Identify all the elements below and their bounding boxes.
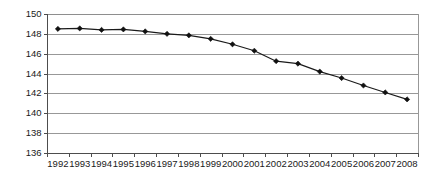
x-tick-label-1999: 1999 bbox=[200, 158, 221, 169]
x-tick-label-2000: 2000 bbox=[222, 158, 243, 169]
x-tick-label-1992: 1992 bbox=[47, 158, 68, 169]
x-tick-label-1997: 1997 bbox=[156, 158, 177, 169]
x-tick-label-1994: 1994 bbox=[91, 158, 112, 169]
y-tick-label-136: 136 bbox=[26, 147, 42, 158]
x-axis-tick-labels: 1992199319941995199619971998199920002001… bbox=[47, 158, 417, 169]
x-tick-label-2006: 2006 bbox=[353, 158, 374, 169]
x-tick-label-2003: 2003 bbox=[287, 158, 308, 169]
y-tick-label-146: 146 bbox=[26, 48, 42, 59]
x-tick-label-2007: 2007 bbox=[375, 158, 396, 169]
x-tick-label-2002: 2002 bbox=[266, 158, 287, 169]
chart-canvas: 136138140142144146148150 199219931994199… bbox=[0, 0, 434, 182]
x-tick-label-2008: 2008 bbox=[397, 158, 418, 169]
x-tick-label-1998: 1998 bbox=[178, 158, 199, 169]
x-tick-label-1995: 1995 bbox=[113, 158, 134, 169]
y-tick-label-138: 138 bbox=[26, 127, 42, 138]
chart-background bbox=[0, 0, 434, 182]
y-tick-label-148: 148 bbox=[26, 28, 42, 39]
x-tick-label-2001: 2001 bbox=[244, 158, 265, 169]
y-tick-label-140: 140 bbox=[26, 107, 42, 118]
y-tick-label-144: 144 bbox=[26, 68, 42, 79]
x-tick-label-2004: 2004 bbox=[309, 158, 330, 169]
x-tick-label-1996: 1996 bbox=[135, 158, 156, 169]
y-tick-label-142: 142 bbox=[26, 87, 42, 98]
x-tick-label-1993: 1993 bbox=[69, 158, 90, 169]
line-chart: 136138140142144146148150 199219931994199… bbox=[0, 0, 434, 182]
x-tick-label-2005: 2005 bbox=[331, 158, 352, 169]
y-tick-label-150: 150 bbox=[26, 8, 42, 19]
